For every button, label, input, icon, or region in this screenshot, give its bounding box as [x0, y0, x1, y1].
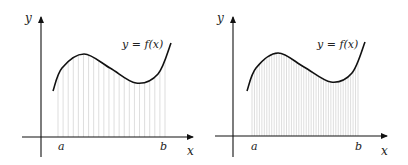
function-label-right: y = f(x) — [316, 38, 358, 51]
diagram-canvas: y = f(x) y x a b y = f(x) y x a b — [0, 0, 408, 165]
b-label-right: b — [355, 140, 362, 153]
a-label-right: a — [251, 140, 258, 153]
riemann-lines-right — [252, 53, 358, 136]
b-label-left: b — [160, 140, 167, 153]
y-axis-label-left: y — [24, 11, 32, 25]
y-axis-label-right: y — [216, 11, 224, 25]
left-panel: y = f(x) y x a b — [22, 11, 194, 158]
riemann-lines-left — [58, 54, 165, 137]
x-axis-label-right: x — [381, 144, 388, 158]
riemann-sum-diagram: y = f(x) y x a b y = f(x) y x a b — [0, 0, 408, 165]
function-label-left: y = f(x) — [121, 38, 163, 51]
x-axis-label-left: x — [187, 144, 194, 158]
a-label-left: a — [58, 140, 65, 153]
right-panel: y = f(x) y x a b — [215, 11, 388, 158]
